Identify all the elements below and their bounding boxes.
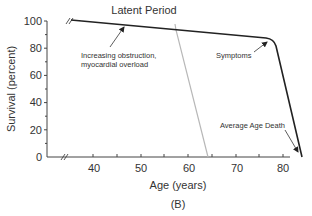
- annotation-text: Average Age Death: [220, 121, 285, 130]
- y-tick-label: 60: [30, 69, 42, 81]
- annotation-average-age-death: Average Age Death: [220, 121, 298, 152]
- y-tick-label: 40: [30, 96, 42, 108]
- annotation-text: Increasing obstruction,: [81, 51, 156, 60]
- annotation-text: Symptoms: [216, 51, 252, 60]
- x-tick-label: 60: [183, 162, 195, 174]
- panel-label: (B): [171, 198, 186, 210]
- annotation-symptoms: Symptoms: [216, 42, 267, 60]
- y-axis-label: Survival (percent): [5, 46, 17, 132]
- y-axis: 100 80 60 40 20 0 Survival (percent): [5, 15, 47, 163]
- annotation-obstruction: Increasing obstruction, myocardial overl…: [81, 27, 156, 69]
- comparison-curve-line: [175, 24, 208, 157]
- disease-course-line: [71, 20, 302, 157]
- x-tick-label: 50: [135, 162, 147, 174]
- annotation-text: myocardial overload: [81, 60, 148, 69]
- x-tick-label: 40: [88, 162, 100, 174]
- y-tick-label: 0: [36, 151, 42, 163]
- y-tick-label: 100: [24, 15, 42, 27]
- x-tick-label: 80: [277, 162, 289, 174]
- x-axis: 40 50 60 70 80 Age (years) (B): [47, 154, 290, 210]
- chart-title: Latent Period: [111, 4, 176, 16]
- x-axis-label: Age (years): [150, 179, 207, 191]
- x-tick-label: 70: [231, 162, 243, 174]
- axis-break-marks: [61, 18, 73, 160]
- y-tick-label: 20: [30, 124, 42, 136]
- y-tick-label: 80: [30, 42, 42, 54]
- survival-chart: Latent Period 100 80 60 40 20 0 Survival…: [0, 0, 312, 216]
